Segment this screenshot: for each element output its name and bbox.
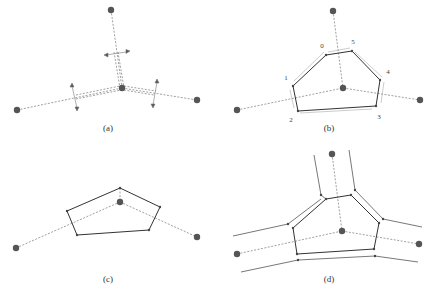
caption-c: (c) [103, 274, 113, 284]
vertex-label-4: 4 [386, 68, 390, 76]
vertex-label-0: 0 [320, 42, 324, 50]
caption-d: (d) [324, 274, 335, 284]
caption-b: (b) [324, 123, 335, 133]
panel-b [234, 8, 423, 113]
vertex-label-3: 3 [377, 113, 381, 121]
panel-c [13, 187, 200, 251]
diagram-canvas [0, 0, 432, 294]
vertex-label-1: 1 [284, 74, 288, 82]
vertex-label-5: 5 [351, 38, 355, 46]
caption-a: (a) [103, 123, 113, 133]
panel-d [233, 150, 422, 272]
vertex-label-2: 2 [289, 116, 293, 124]
panel-a [14, 7, 200, 113]
